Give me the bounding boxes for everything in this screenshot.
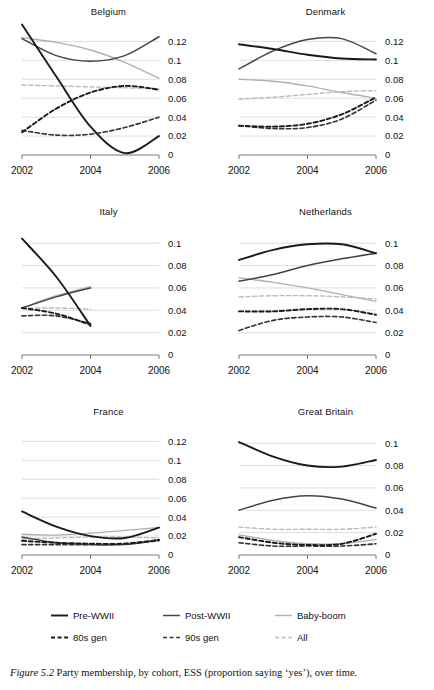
x-tick-label: 2006: [365, 565, 388, 576]
chart-panel-italy: Italy00.020.040.060.080.1200220042006: [0, 200, 217, 395]
series-line-all: [239, 527, 376, 529]
chart-title: Netherlands: [217, 206, 434, 217]
series-line-post-wwii: [239, 496, 376, 511]
y-tick-label: 0.08: [385, 260, 404, 271]
chart-plot: 00.020.040.060.080.10.12200220042006: [0, 20, 217, 195]
chart-title: Great Britain: [217, 406, 434, 417]
x-tick-label: 2006: [365, 165, 388, 176]
y-tick-label: 0.08: [385, 74, 404, 85]
x-tick-label: 2004: [296, 165, 319, 176]
y-tick-label: 0.08: [168, 474, 187, 485]
chart-panel-great-britain: Great Britain00.020.040.060.080.12002200…: [217, 400, 434, 595]
x-tick-label: 2004: [79, 165, 102, 176]
figure-container: Belgium00.020.040.060.080.10.12200220042…: [0, 0, 434, 690]
chart-plot: 00.020.040.060.080.10.12200220042006: [0, 420, 217, 595]
chart-plot: 00.020.040.060.080.1200220042006: [217, 420, 434, 595]
chart-panel-france: France00.020.040.060.080.10.122002200420…: [0, 400, 217, 595]
legend-item-90s-gen: 90s gen: [163, 632, 271, 643]
y-tick-label: 0.08: [168, 260, 187, 271]
y-tick-label: 0.1: [385, 55, 398, 66]
y-tick-label: 0.12: [168, 436, 187, 447]
legend-swatch-icon: [51, 611, 68, 620]
chart-panel-belgium: Belgium00.020.040.060.080.10.12200220042…: [0, 0, 217, 195]
y-tick-label: 0.04: [168, 305, 187, 316]
y-tick-label: 0.06: [168, 493, 187, 504]
chart-title: Belgium: [0, 6, 217, 17]
y-tick-label: 0.08: [168, 74, 187, 85]
y-tick-label: 0.04: [385, 505, 404, 516]
y-tick-label: 0.12: [168, 36, 187, 47]
figure-legend: Pre-WWIIPost-WWIIBaby-boom80s gen90s gen…: [0, 604, 434, 656]
x-tick-label: 2002: [228, 565, 251, 576]
x-tick-label: 2002: [228, 365, 251, 376]
chart-plot: 00.020.040.060.080.1200220042006: [0, 220, 217, 395]
x-tick-label: 2004: [79, 365, 102, 376]
y-tick-label: 0.02: [168, 530, 187, 541]
legend-item-pre-wwii: Pre-WWII: [51, 610, 159, 621]
legend-swatch-icon: [275, 611, 292, 620]
y-tick-label: 0.02: [385, 130, 404, 141]
y-tick-label: 0.04: [385, 305, 404, 316]
series-line-pre-wwii: [239, 243, 376, 260]
legend-swatch-icon: [163, 633, 180, 642]
y-tick-label: 0: [385, 349, 390, 360]
y-tick-label: 0.06: [168, 93, 187, 104]
legend-label: Pre-WWII: [73, 610, 114, 621]
x-tick-label: 2006: [148, 565, 171, 576]
chart-title: France: [0, 406, 217, 417]
series-line-all: [22, 537, 159, 539]
legend-label: 80s gen: [73, 632, 107, 643]
y-tick-label: 0.02: [168, 327, 187, 338]
y-tick-label: 0: [385, 549, 390, 560]
legend-row: Pre-WWIIPost-WWIIBaby-boom: [0, 604, 434, 626]
chart-panel-denmark: Denmark00.020.040.060.080.10.12200220042…: [217, 0, 434, 195]
x-tick-label: 2002: [11, 565, 34, 576]
legend-row: 80s gen90s genAll: [0, 626, 434, 648]
x-tick-label: 2002: [11, 365, 34, 376]
series-line-80s-gen: [239, 309, 376, 315]
legend-item-post-wwii: Post-WWII: [163, 610, 271, 621]
series-line-post-wwii: [239, 37, 376, 69]
x-tick-label: 2004: [296, 365, 319, 376]
y-tick-label: 0.02: [385, 527, 404, 538]
series-line-pre-wwii: [239, 442, 376, 467]
legend-swatch-icon: [275, 633, 292, 642]
y-tick-label: 0.1: [385, 438, 398, 449]
x-tick-label: 2002: [11, 165, 34, 176]
y-tick-label: 0.06: [168, 282, 187, 293]
y-tick-label: 0.1: [385, 238, 398, 249]
y-tick-label: 0.04: [168, 512, 187, 523]
y-tick-label: 0.06: [385, 282, 404, 293]
series-line-baby-boom: [22, 38, 159, 79]
y-tick-label: 0.02: [168, 130, 187, 141]
y-tick-label: 0.1: [168, 238, 181, 249]
y-tick-label: 0.04: [168, 112, 187, 123]
y-tick-label: 0.04: [385, 112, 404, 123]
legend-label: Post-WWII: [185, 610, 230, 621]
y-tick-label: 0: [385, 149, 390, 160]
series-line-baby-boom: [239, 278, 376, 301]
panel-grid: Belgium00.020.040.060.080.10.12200220042…: [0, 0, 434, 600]
x-tick-label: 2002: [228, 165, 251, 176]
caption-text: Party membership, by cohort, ESS (propor…: [57, 667, 358, 678]
x-tick-label: 2006: [365, 365, 388, 376]
legend-label: All: [297, 632, 308, 643]
series-line-90s-gen: [239, 316, 376, 330]
y-tick-label: 0.02: [385, 327, 404, 338]
x-tick-label: 2004: [79, 565, 102, 576]
series-line-post-wwii: [239, 253, 376, 281]
chart-plot: 00.020.040.060.080.10.12200220042006: [217, 20, 434, 195]
legend-item-all: All: [275, 632, 383, 643]
legend-label: Baby-boom: [297, 610, 346, 621]
y-tick-label: 0.06: [385, 93, 404, 104]
y-tick-label: 0.12: [385, 36, 404, 47]
figure-caption: Figure 5.2 Party membership, by cohort, …: [10, 666, 428, 679]
x-tick-label: 2004: [296, 565, 319, 576]
y-tick-label: 0.1: [168, 55, 181, 66]
series-line-post-wwii: [22, 288, 91, 308]
y-tick-label: 0.1: [168, 455, 181, 466]
series-line-baby-boom: [239, 79, 376, 98]
x-tick-label: 2006: [148, 165, 171, 176]
legend-swatch-icon: [51, 633, 68, 642]
y-tick-label: 0: [168, 349, 173, 360]
